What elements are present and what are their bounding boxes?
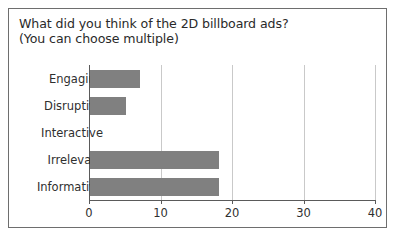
- x-tick-30: [304, 200, 305, 204]
- x-tick-label-10: 10: [153, 206, 168, 220]
- category-label-interactive: Interactive: [41, 126, 103, 140]
- bar-irrelevant: [90, 151, 219, 169]
- x-tick-label-30: 30: [296, 206, 311, 220]
- chart-frame: What did you think of the 2D billboard a…: [8, 8, 387, 228]
- chart-title: What did you think of the 2D billboard a…: [19, 17, 369, 46]
- x-tick-label-0: 0: [85, 206, 92, 220]
- x-tick-0: [89, 200, 90, 204]
- x-tick-label-40: 40: [368, 206, 383, 220]
- bar-engaging: [90, 70, 140, 88]
- x-tick-20: [232, 200, 233, 204]
- gridline-x-30: [304, 65, 305, 200]
- x-tick-10: [161, 200, 162, 204]
- x-tick-40: [375, 200, 376, 204]
- gridline-x-40: [375, 65, 376, 200]
- x-tick-label-20: 20: [225, 206, 240, 220]
- bar-informative: [90, 178, 219, 196]
- gridline-x-20: [232, 65, 233, 200]
- bar-disruptive: [90, 97, 126, 115]
